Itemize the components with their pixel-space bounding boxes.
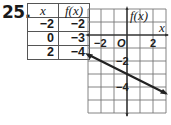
line-arrow-right-icon — [160, 89, 168, 95]
coordinate-graph: f(x) x −2 O 2 −2 −4 — [0, 0, 171, 125]
x-tick-label-2: 2 — [150, 37, 156, 49]
y-tick-label-neg2: −2 — [116, 55, 129, 67]
x-tick-label-neg2: −2 — [94, 37, 107, 49]
y-tick-label-neg4: −4 — [116, 81, 129, 93]
y-axis-label: f(x) — [130, 8, 148, 23]
line-arrow-left-icon — [85, 53, 93, 59]
y-axis-arrow-up-icon — [126, 6, 129, 10]
origin-label: O — [117, 37, 126, 49]
y-axis-arrow-down-icon — [126, 113, 129, 117]
x-axis-arrow-left-icon — [85, 34, 89, 37]
x-axis-label: x — [158, 20, 165, 35]
x-axis-arrow-right-icon — [165, 34, 169, 37]
